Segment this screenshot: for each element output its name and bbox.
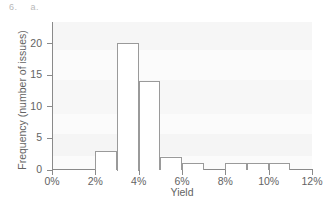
histogram-bar [117,43,139,171]
histogram-bar [160,157,182,171]
y-axis-tick-label: 5 [8,132,42,142]
y-axis-tick-label: 15 [8,69,42,79]
figure-annotation: 6. a. [9,2,39,12]
y-axis-tick [47,43,52,44]
plot-area [52,22,312,170]
background-band [52,80,312,114]
x-axis-label: Yield [52,186,312,198]
y-axis-tick-label: 0 [8,164,42,174]
histogram-bar [225,163,247,170]
y-axis-line [52,22,53,170]
histogram-bar [269,163,291,170]
background-band [52,22,312,50]
y-axis-tick [47,138,52,139]
part-label: a. [31,2,40,12]
y-axis-tick-label: 10 [8,101,42,111]
histogram-bar [182,163,204,170]
y-axis-tick [47,106,52,107]
histogram-bar [139,81,161,171]
histogram-bar [247,163,269,170]
y-axis-tick-label: 20 [8,38,42,48]
problem-number: 6. [9,2,18,12]
histogram-figure: 6. a. Frequency (number of issues) 05101… [0,0,332,204]
background-band [52,134,312,156]
y-axis-tick [47,75,52,76]
histogram-bar [95,151,117,171]
